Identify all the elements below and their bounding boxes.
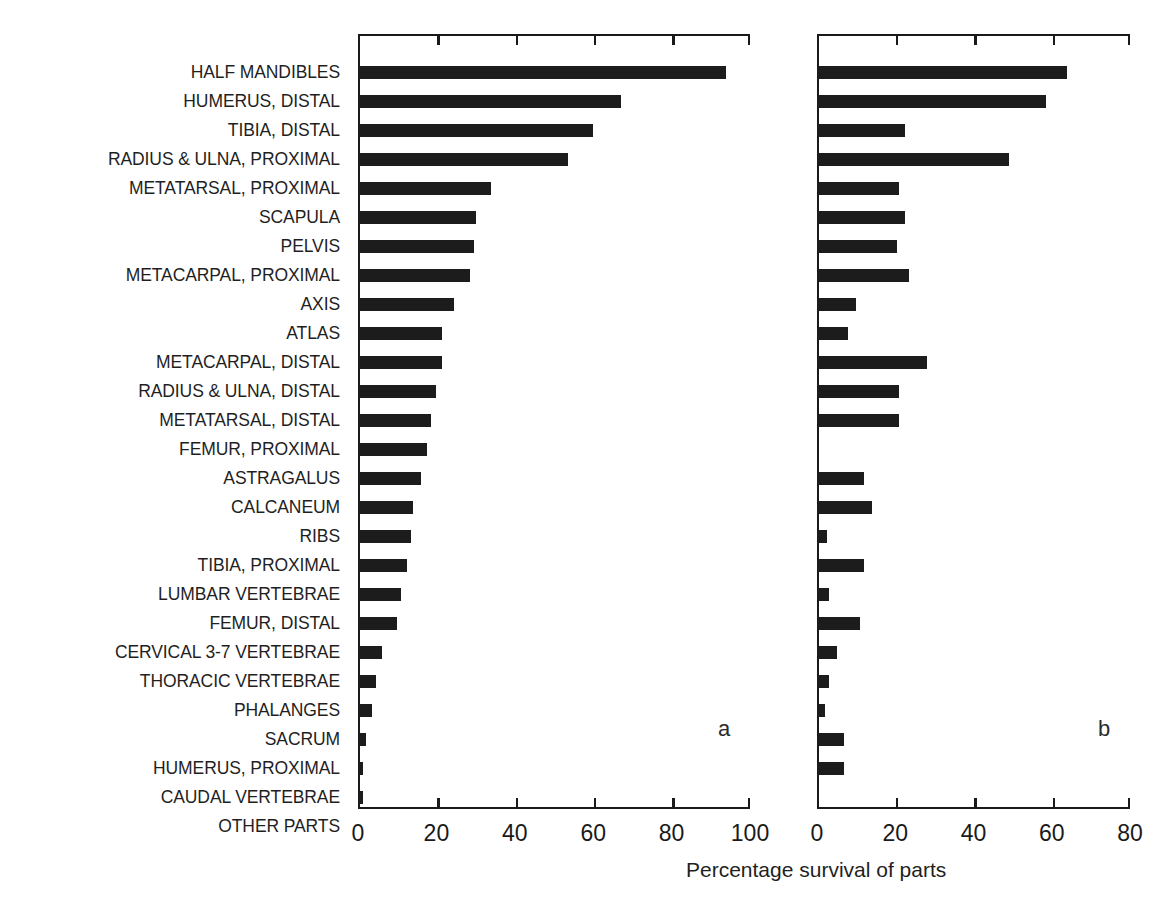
bar-row: [358, 232, 750, 261]
bar-row: [817, 87, 1130, 116]
bar-row: [817, 609, 1130, 638]
category-label: RIBS: [0, 522, 348, 551]
bar: [358, 617, 397, 630]
bar-row: [817, 580, 1130, 609]
panel-a-top-endcap: [748, 36, 750, 45]
panel-b-letter: b: [1098, 716, 1110, 742]
category-label: ATLAS: [0, 319, 348, 348]
bar: [358, 124, 593, 137]
bar: [358, 298, 454, 311]
bar-row: [817, 435, 1130, 464]
bar-row: [817, 667, 1130, 696]
category-label: AXIS: [0, 290, 348, 319]
bar: [817, 269, 909, 282]
bar-row: [358, 145, 750, 174]
category-label: PHALANGES: [0, 696, 348, 725]
bar-row: [358, 609, 750, 638]
bar-row: [817, 725, 1130, 754]
bar-row: [358, 348, 750, 377]
bar: [358, 472, 421, 485]
bar: [358, 182, 491, 195]
bar: [358, 675, 376, 688]
x-axis-tick: [594, 36, 596, 45]
bar: [817, 153, 1009, 166]
bar: [358, 153, 568, 166]
bar-row: [817, 638, 1130, 667]
bar: [817, 617, 860, 630]
panel-a-letter: a: [718, 716, 730, 742]
x-axis-tick-label: 100: [731, 820, 769, 847]
bar-row: [358, 377, 750, 406]
bar: [817, 211, 905, 224]
bar-row: [358, 754, 750, 783]
category-label: RADIUS & ULNA, DISTAL: [0, 377, 348, 406]
bar: [358, 414, 431, 427]
bar-row: [358, 174, 750, 203]
bar: [358, 443, 427, 456]
bar: [817, 66, 1067, 79]
bar: [358, 66, 726, 79]
bar: [817, 646, 837, 659]
x-axis-tick-label: 20: [882, 820, 908, 847]
bar: [817, 559, 864, 572]
bar-row: [817, 377, 1130, 406]
bar: [817, 385, 899, 398]
bar-row: [817, 145, 1130, 174]
bar-row: [358, 58, 750, 87]
bar: [817, 704, 825, 717]
x-axis-tick-label: 60: [580, 820, 606, 847]
x-axis-tick-label: 80: [659, 820, 685, 847]
x-axis-tick: [672, 36, 674, 45]
bar: [358, 530, 411, 543]
category-label: METACARPAL, PROXIMAL: [0, 261, 348, 290]
bar-row: [817, 464, 1130, 493]
bar: [358, 356, 442, 369]
category-label: PELVIS: [0, 232, 348, 261]
bar: [817, 298, 856, 311]
bar-row: [358, 493, 750, 522]
x-axis-tick-label: 0: [352, 820, 365, 847]
x-axis-tick-label: 20: [424, 820, 450, 847]
bar-row: [358, 464, 750, 493]
bar-row: [358, 203, 750, 232]
bar: [358, 327, 442, 340]
bar-row: [358, 522, 750, 551]
bar-row: [358, 638, 750, 667]
x-axis-tick-label: 40: [502, 820, 528, 847]
category-label: SCAPULA: [0, 203, 348, 232]
bar: [358, 211, 476, 224]
bar-row: [358, 261, 750, 290]
bar-row: [358, 551, 750, 580]
bar: [817, 675, 829, 688]
bar-row: [817, 261, 1130, 290]
bar: [817, 762, 844, 775]
bar: [817, 414, 899, 427]
bar: [358, 762, 363, 775]
bar-row: [817, 783, 1130, 812]
category-label: FEMUR, PROXIMAL: [0, 435, 348, 464]
category-label: THORACIC VERTEBRAE: [0, 667, 348, 696]
bar-row: [817, 203, 1130, 232]
category-label: CAUDAL VERTEBRAE: [0, 783, 348, 812]
bar-row: [817, 116, 1130, 145]
bar: [358, 385, 436, 398]
bar-row: [817, 174, 1130, 203]
bar-row: [817, 348, 1130, 377]
x-axis-tick-label: 80: [1117, 820, 1143, 847]
bar: [358, 240, 474, 253]
bar: [358, 791, 363, 804]
bar-row: [358, 87, 750, 116]
bar: [817, 327, 848, 340]
x-axis-tick: [437, 36, 439, 45]
bar-row: [817, 696, 1130, 725]
category-label: OTHER PARTS: [0, 812, 348, 841]
x-axis-tick: [516, 36, 518, 45]
bar-row: [358, 580, 750, 609]
bar: [817, 501, 872, 514]
category-label: METATARSAL, DISTAL: [0, 406, 348, 435]
bar-row: [817, 319, 1130, 348]
panel-a-bars: [358, 58, 750, 841]
category-label: FEMUR, DISTAL: [0, 609, 348, 638]
bar: [358, 269, 470, 282]
bar-row: [358, 783, 750, 812]
